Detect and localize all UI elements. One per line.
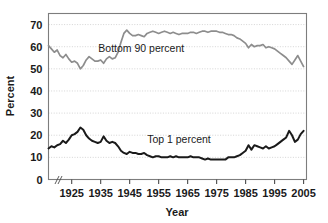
series-label-bottom-90: Bottom 90 percent	[98, 42, 184, 54]
y-axis-title: Percent	[4, 75, 16, 116]
y-axis-tick-label: 10	[30, 151, 42, 163]
x-axis-title: Year	[165, 206, 189, 218]
chart-container: 010203040506070 192519351945195519651975…	[0, 0, 328, 223]
y-axis-tick-label: 20	[30, 129, 42, 141]
x-axis-tick-label: 2005	[291, 187, 315, 199]
income-share-line-chart: 010203040506070 192519351945195519651975…	[0, 0, 328, 223]
x-axis-tick-label: 1925	[59, 187, 83, 199]
x-axis-tick-label: 1985	[233, 187, 257, 199]
series-label-top-1: Top 1 percent	[147, 133, 211, 145]
x-axis-tick-label: 1995	[262, 187, 286, 199]
x-axis-tick-label: 1955	[146, 187, 170, 199]
x-axis-tick-labels: 192519351945195519651975198519952005	[59, 187, 315, 199]
y-axis-tick-label: 60	[30, 41, 42, 53]
y-axis-tick-label: 70	[30, 19, 42, 31]
x-axis-tick-label: 1975	[204, 187, 228, 199]
x-axis-tick-label: 1945	[117, 187, 141, 199]
x-axis-tick-label: 1935	[88, 187, 112, 199]
x-axis-tick-label: 1965	[175, 187, 199, 199]
y-axis-tick-label: 40	[30, 85, 42, 97]
y-axis-tick-label: 0	[36, 174, 42, 186]
y-axis-tick-label: 50	[30, 63, 42, 75]
y-axis-tick-label: 30	[30, 107, 42, 119]
